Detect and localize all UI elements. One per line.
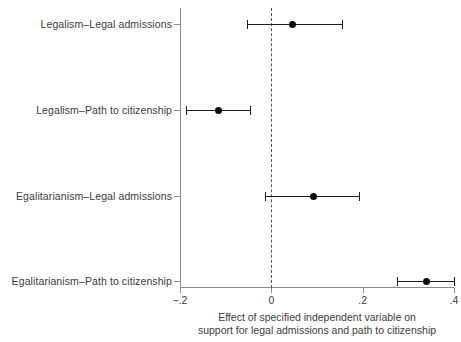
- zero-reference-line: [271, 8, 272, 288]
- confidence-interval-cap: [342, 20, 343, 29]
- x-axis-caption-line-1: Effect of specified independent variable…: [180, 311, 454, 324]
- x-axis-tick: [454, 288, 455, 293]
- x-axis-caption: Effect of specified independent variable…: [180, 311, 454, 337]
- y-axis-tick: [174, 196, 180, 197]
- x-axis-tick-label: .4: [450, 294, 459, 306]
- confidence-interval-cap: [186, 106, 187, 115]
- category-label: Egalitarianism–Legal admissions: [16, 190, 172, 202]
- x-axis-tick-label: .2: [358, 294, 367, 306]
- confidence-interval-cap: [265, 192, 266, 201]
- confidence-interval-cap: [454, 277, 455, 286]
- coefficient-plot-figure: Legalism–Legal admissionsLegalism–Path t…: [0, 0, 461, 342]
- category-label: Legalism–Path to citizenship: [36, 104, 172, 116]
- x-axis-tick: [363, 288, 364, 293]
- confidence-interval-cap: [397, 277, 398, 286]
- x-axis-tick-label: 0: [268, 294, 274, 306]
- y-axis-tick: [174, 281, 180, 282]
- y-axis-tick: [174, 24, 180, 25]
- confidence-interval-cap: [250, 106, 251, 115]
- x-axis-tick-label: −.2: [173, 294, 188, 306]
- y-axis-tick: [174, 110, 180, 111]
- confidence-interval-cap: [359, 192, 360, 201]
- point-estimate-marker: [289, 21, 296, 28]
- x-axis-line: [180, 287, 454, 288]
- x-axis-tick: [180, 288, 181, 293]
- point-estimate-marker: [215, 107, 222, 114]
- confidence-interval-cap: [247, 20, 248, 29]
- category-label: Egalitarianism–Path to citizenship: [12, 275, 172, 287]
- y-axis-line: [180, 8, 181, 288]
- point-estimate-marker: [423, 278, 430, 285]
- category-label: Legalism–Legal admissions: [41, 18, 173, 30]
- point-estimate-marker: [310, 193, 317, 200]
- x-axis-caption-line-2: support for legal admissions and path to…: [180, 324, 454, 337]
- x-axis-tick: [271, 288, 272, 293]
